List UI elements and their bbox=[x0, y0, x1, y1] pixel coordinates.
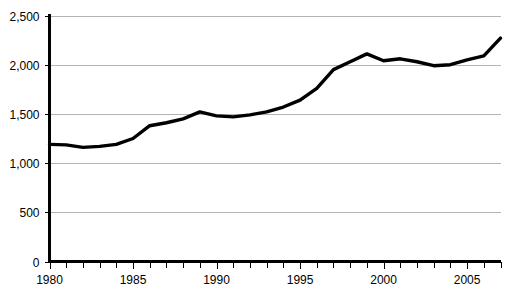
chart-canvas: 05001,0001,5002,0002,500 198019851990199… bbox=[0, 0, 509, 302]
line-chart: 05001,0001,5002,0002,500 198019851990199… bbox=[0, 0, 509, 302]
x-axis-tick-label: 1985 bbox=[120, 273, 147, 287]
x-axis-tick-label: 2005 bbox=[454, 273, 481, 287]
x-axis-tick-label: 1990 bbox=[203, 273, 230, 287]
x-axis-tick-label: 1980 bbox=[36, 273, 63, 287]
x-axis-tick-label: 1995 bbox=[287, 273, 314, 287]
chart-background bbox=[0, 0, 509, 302]
x-axis-tick-label: 2000 bbox=[370, 273, 397, 287]
y-axis-tick-label: 500 bbox=[19, 206, 39, 220]
y-axis-tick-label: 2,500 bbox=[9, 10, 39, 24]
y-axis-tick-label: 2,000 bbox=[9, 59, 39, 73]
y-axis-tick-label: 0 bbox=[33, 256, 40, 270]
y-axis-tick-label: 1,000 bbox=[9, 157, 39, 171]
y-axis-tick-label: 1,500 bbox=[9, 108, 39, 122]
